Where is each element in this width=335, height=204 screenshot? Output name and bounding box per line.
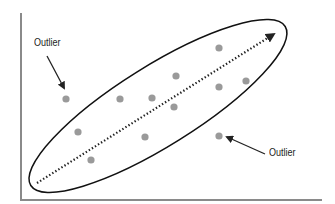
data-point: [170, 103, 177, 110]
data-point: [87, 156, 94, 163]
data-point: [141, 133, 148, 140]
data-point: [116, 95, 123, 102]
outlier-point: [215, 132, 222, 139]
annotation-arrow-bottom-right: [227, 137, 265, 154]
outlier-label-bottom-right: Outlier: [269, 146, 296, 158]
scatter-chart: [0, 0, 335, 204]
outlier-point: [62, 95, 69, 102]
trend-line: [37, 34, 274, 183]
data-point: [215, 44, 222, 51]
cluster-ellipse: [10, 0, 307, 204]
data-point: [172, 72, 179, 79]
outlier-label-top-left: Outlier: [34, 36, 61, 48]
annotation-arrow-top-left: [47, 56, 64, 88]
data-point: [148, 94, 155, 101]
data-point: [215, 83, 222, 90]
data-point: [242, 77, 249, 84]
data-point: [74, 128, 81, 135]
